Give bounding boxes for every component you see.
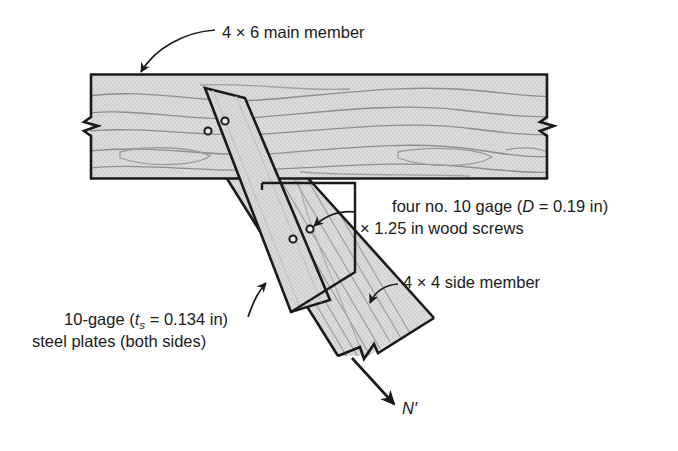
side-member-label: 4 × 4 side member [403,273,541,291]
plates-label-part2: = 0.134 in) [145,310,228,328]
plates-label-line2: steel plates (both sides) [32,332,206,350]
screws-label-D: D [522,197,534,215]
screws-label-part2: = 0.19 in) [534,197,608,215]
plates-label-part1: 10-gage ( [64,310,135,328]
screw-hole [306,225,313,232]
screws-label-part1: four no. 10 gage ( [392,197,523,215]
steel-plates-label: 10-gage (ts = 0.134 in) steel plates (bo… [32,310,251,350]
screw-hole [289,235,296,242]
connection-diagram: 4 × 6 main member four no. 10 gage (D = … [0,0,678,451]
screws-label: four no. 10 gage (D = 0.19 in) × 1.25 in… [360,197,631,237]
screws-label-line2: × 1.25 in wood screws [360,219,524,237]
screw-hole [221,117,228,124]
main-member-shape [84,74,554,179]
load-force-label: N′ [402,399,418,417]
svg-text:four no. 10 gage (D = 0.19 in): four no. 10 gage (D = 0.19 in) [360,197,631,215]
main-member-leader [141,30,215,72]
screw-hole [204,127,211,134]
load-arrow [352,358,394,404]
main-member-label: 4 × 6 main member [222,23,365,41]
svg-text:10-gage (ts = 0.134 in): 10-gage (ts = 0.134 in) [32,310,251,331]
